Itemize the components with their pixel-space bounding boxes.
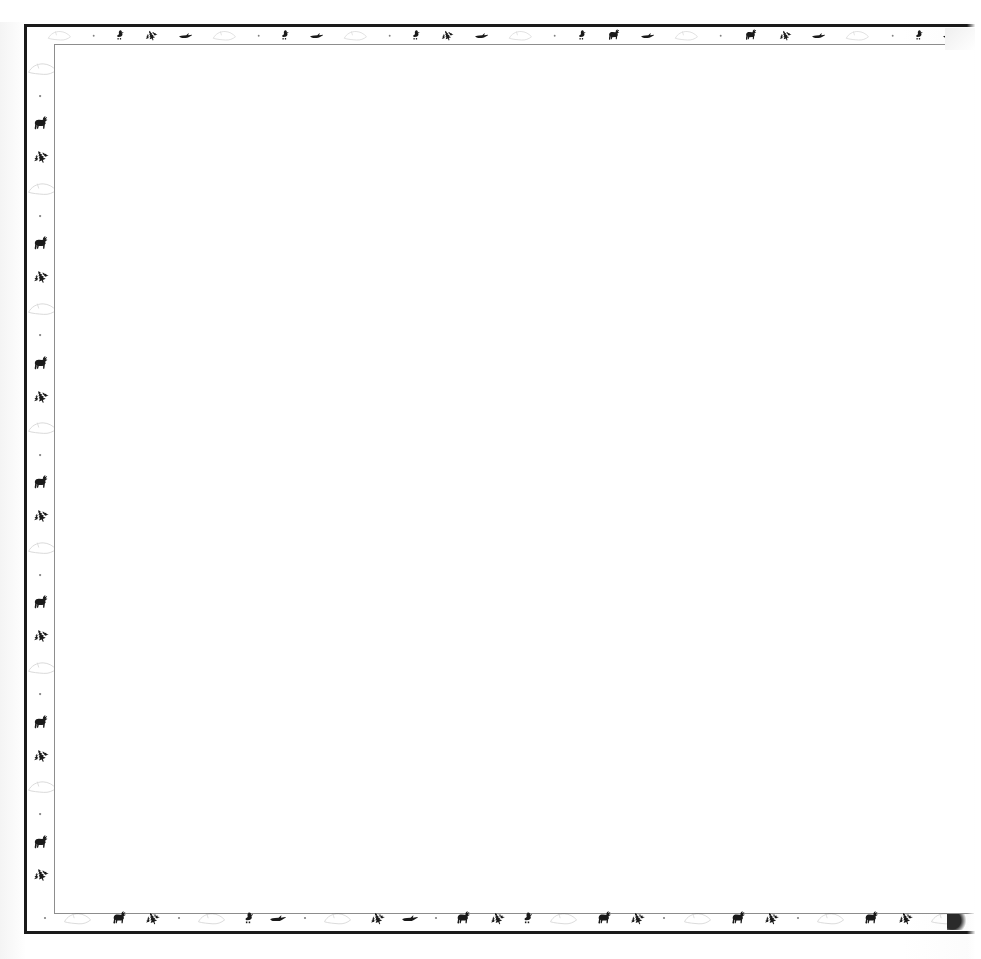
ink-speck-icon bbox=[38, 453, 42, 457]
moose-icon bbox=[31, 715, 50, 731]
pine-tree-icon bbox=[763, 912, 780, 925]
ink-speck-icon bbox=[553, 34, 556, 37]
blank-writing-area bbox=[56, 46, 974, 912]
moose-icon bbox=[743, 29, 758, 42]
faint-leaf-icon bbox=[47, 30, 73, 41]
pine-tree-icon bbox=[369, 912, 386, 925]
standing-duck-icon bbox=[914, 30, 923, 40]
ink-speck-icon bbox=[388, 34, 391, 37]
pine-tree-icon bbox=[32, 150, 50, 164]
pine-tree-icon bbox=[144, 30, 158, 41]
faint-leaf-icon bbox=[683, 912, 713, 925]
standing-duck-icon bbox=[577, 30, 586, 40]
faint-leaf-icon bbox=[343, 30, 369, 41]
moose-icon bbox=[454, 911, 472, 926]
moose-icon bbox=[31, 356, 50, 372]
flying-duck-icon bbox=[310, 32, 324, 39]
faint-leaf-icon bbox=[27, 421, 54, 435]
ink-speck-icon bbox=[796, 916, 800, 920]
flying-duck-icon bbox=[179, 32, 193, 39]
faint-leaf-icon bbox=[674, 30, 700, 41]
standing-duck-icon bbox=[115, 30, 124, 40]
moose-icon bbox=[862, 911, 880, 926]
pine-tree-icon bbox=[32, 629, 50, 643]
flying-duck-icon bbox=[943, 32, 957, 39]
standing-duck-icon bbox=[522, 912, 533, 924]
moose-icon bbox=[110, 911, 128, 926]
ink-speck-icon bbox=[38, 94, 42, 98]
left-border-motif-band bbox=[27, 44, 54, 906]
standing-duck-icon bbox=[243, 912, 254, 924]
pine-tree-icon bbox=[32, 868, 50, 882]
faint-leaf-icon bbox=[323, 912, 353, 925]
pine-tree-icon bbox=[897, 912, 914, 925]
pine-tree-icon bbox=[629, 912, 646, 925]
faint-leaf-icon bbox=[63, 912, 93, 925]
ink-speck-icon bbox=[38, 333, 42, 337]
ink-speck-icon bbox=[38, 573, 42, 577]
pine-tree-icon bbox=[32, 509, 50, 523]
ink-speck-icon bbox=[43, 916, 47, 920]
ink-speck-icon bbox=[38, 812, 42, 816]
pine-tree-icon bbox=[32, 390, 50, 404]
flying-duck-icon bbox=[812, 32, 826, 39]
ink-speck-icon bbox=[303, 916, 307, 920]
standing-duck-icon bbox=[411, 30, 420, 40]
ink-speck-icon bbox=[662, 916, 666, 920]
pine-tree-icon bbox=[144, 912, 161, 925]
faint-leaf-icon bbox=[197, 912, 227, 925]
scanned-page bbox=[0, 0, 981, 959]
flying-duck-icon bbox=[641, 32, 655, 39]
ink-speck-icon bbox=[257, 34, 260, 37]
scan-top-margin bbox=[0, 0, 981, 22]
faint-leaf-icon bbox=[845, 30, 871, 41]
faint-leaf-icon bbox=[27, 780, 54, 794]
ink-speck-icon bbox=[38, 214, 42, 218]
bottom-border-motif-band bbox=[27, 905, 976, 931]
pine-tree-icon bbox=[32, 270, 50, 284]
pine-tree-icon bbox=[32, 749, 50, 763]
moose-icon bbox=[31, 595, 50, 611]
flying-duck-icon bbox=[402, 914, 418, 922]
ink-speck-icon bbox=[891, 34, 894, 37]
faint-leaf-icon bbox=[27, 661, 54, 675]
top-border-motif-band bbox=[27, 27, 976, 44]
ink-speck-icon bbox=[434, 916, 438, 920]
ink-speck-icon bbox=[719, 34, 722, 37]
moose-icon bbox=[31, 116, 50, 132]
ink-speck-icon bbox=[38, 692, 42, 696]
ink-speck-icon bbox=[177, 916, 181, 920]
faint-leaf-icon bbox=[27, 541, 54, 555]
faint-leaf-icon bbox=[508, 30, 534, 41]
standing-duck-icon bbox=[280, 30, 289, 40]
pine-tree-icon bbox=[778, 30, 792, 41]
moose-icon bbox=[31, 236, 50, 252]
faint-leaf-icon bbox=[27, 62, 54, 76]
faint-leaf-icon bbox=[930, 912, 960, 925]
moose-icon bbox=[31, 835, 50, 851]
pine-tree-icon bbox=[489, 912, 506, 925]
faint-leaf-icon bbox=[816, 912, 846, 925]
ink-speck-icon bbox=[92, 34, 95, 37]
flying-duck-icon bbox=[475, 32, 489, 39]
moose-icon bbox=[729, 911, 747, 926]
moose-icon bbox=[606, 29, 621, 42]
flying-duck-icon bbox=[270, 914, 286, 922]
faint-leaf-icon bbox=[549, 912, 579, 925]
faint-leaf-icon bbox=[212, 30, 238, 41]
moose-icon bbox=[595, 911, 613, 926]
moose-icon bbox=[31, 475, 50, 491]
faint-leaf-icon bbox=[27, 302, 54, 316]
pine-tree-icon bbox=[440, 30, 454, 41]
faint-leaf-icon bbox=[27, 182, 54, 196]
